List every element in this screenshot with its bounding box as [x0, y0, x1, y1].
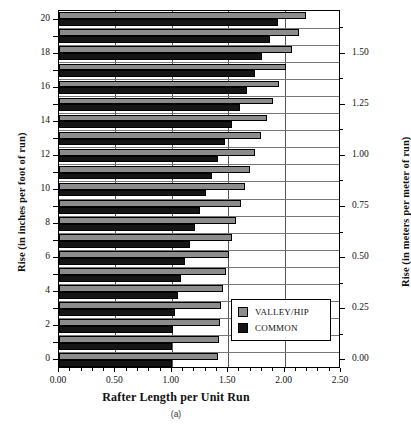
- bar-group: [59, 164, 339, 181]
- x-axis-tick-minor: [329, 368, 330, 371]
- y-axis-tick-right-minor: [340, 283, 343, 284]
- bar-valley-hip: [59, 251, 229, 258]
- y-axis-label-left: 8: [30, 218, 50, 227]
- legend: VALLEY/HIP COMMON: [231, 299, 331, 341]
- x-axis-tick-minor: [238, 368, 239, 371]
- bar-valley-hip: [59, 183, 245, 190]
- y-axis-label-left: 12: [30, 150, 50, 159]
- bar-group: [59, 11, 339, 28]
- bar-valley-hip: [59, 302, 221, 309]
- y-axis-tick-left: [53, 223, 58, 224]
- y-axis-tick-left: [53, 291, 58, 292]
- figure-caption: (a): [0, 409, 352, 419]
- y-axis-tick-right-minor: [340, 232, 343, 233]
- legend-item: COMMON: [238, 320, 330, 336]
- x-axis-tick-minor: [250, 368, 251, 371]
- bar-group: [59, 216, 339, 233]
- y-axis-label-left: 10: [30, 184, 50, 193]
- x-axis-tick-minor: [193, 368, 194, 371]
- x-axis-tick: [340, 368, 341, 372]
- bar-valley-hip: [59, 234, 232, 241]
- bar-common: [59, 275, 181, 282]
- bar-group: [59, 250, 339, 267]
- bar-common: [59, 241, 190, 248]
- y-axis-tick-right-minor: [340, 334, 343, 335]
- y-axis-tick-right: [340, 155, 345, 156]
- bar-group: [59, 147, 339, 164]
- x-axis-tick-minor: [317, 368, 318, 371]
- bar-valley-hip: [59, 98, 273, 105]
- x-axis-tick: [171, 368, 172, 372]
- bar-valley-hip: [59, 115, 267, 122]
- y-axis-tick-left: [53, 206, 58, 207]
- bar-common: [59, 292, 178, 299]
- y-axis-tick-right-minor: [340, 129, 343, 130]
- y-axis-tick-left: [53, 172, 58, 173]
- y-axis-tick-left: [53, 19, 58, 20]
- y-axis-tick-right: [340, 359, 345, 360]
- x-axis-tick-minor: [92, 368, 93, 371]
- y-axis-label-right: 0.25: [352, 303, 369, 312]
- bar-common: [59, 70, 255, 77]
- bar-valley-hip: [59, 319, 220, 326]
- x-axis-tick-minor: [69, 368, 70, 371]
- bar-valley-hip: [59, 64, 286, 71]
- y-axis-tick-left: [53, 138, 58, 139]
- x-axis-tick-minor: [148, 368, 149, 371]
- y-axis-tick-left: [53, 257, 58, 258]
- y-axis-tick-right-minor: [340, 78, 343, 79]
- legend-swatch-valley-hip: [238, 307, 248, 317]
- x-axis-label: 2.00: [264, 375, 304, 385]
- y-axis-tick-right: [340, 53, 345, 54]
- bar-valley-hip: [59, 29, 299, 36]
- y-axis-tick-left: [53, 70, 58, 71]
- bar-valley-hip: [59, 336, 219, 343]
- legend-item: VALLEY/HIP: [238, 304, 330, 320]
- bar-group: [59, 267, 339, 284]
- bar-common: [59, 36, 270, 43]
- bar-valley-hip: [59, 353, 218, 360]
- legend-swatch-common: [238, 323, 248, 333]
- bar-valley-hip: [59, 285, 223, 292]
- y-axis-label-right: 0.00: [352, 354, 369, 363]
- bar-common: [59, 207, 200, 214]
- y-axis-tick-right-minor: [340, 180, 343, 181]
- y-axis-tick-left: [53, 325, 58, 326]
- y-axis-label-right: 1.00: [352, 150, 369, 159]
- x-axis-tick-minor: [216, 368, 217, 371]
- bar-common: [59, 224, 195, 231]
- bar-group: [59, 62, 339, 79]
- bar-valley-hip: [59, 166, 250, 173]
- bar-common: [59, 343, 172, 350]
- bar-valley-hip: [59, 46, 292, 53]
- bar-group: [59, 199, 339, 216]
- bar-valley-hip: [59, 12, 306, 19]
- x-axis-tick: [58, 368, 59, 372]
- y-axis-label-left: 0: [30, 354, 50, 363]
- y-axis-label-left: 20: [30, 14, 50, 23]
- y-axis-label-right: 1.50: [352, 48, 369, 57]
- bar-valley-hip: [59, 268, 226, 275]
- y-axis-tick-right: [340, 308, 345, 309]
- bar-common: [59, 19, 278, 26]
- x-axis-tick-minor: [137, 368, 138, 371]
- bar-common: [59, 156, 218, 163]
- bar-common: [59, 139, 225, 146]
- bar-common: [59, 326, 173, 333]
- x-axis-tick: [284, 368, 285, 372]
- bar-common: [59, 121, 232, 128]
- y-axis-label-right: 0.50: [352, 252, 369, 261]
- y-axis-tick-left: [53, 359, 58, 360]
- y-axis-tick-right: [340, 104, 345, 105]
- y-axis-tick-right-minor: [340, 27, 343, 28]
- y-axis-tick-right: [340, 257, 345, 258]
- bar-valley-hip: [59, 217, 236, 224]
- y-axis-label-left: 6: [30, 252, 50, 261]
- y-axis-tick-left: [53, 189, 58, 190]
- x-axis-tick-minor: [306, 368, 307, 371]
- bar-common: [59, 173, 212, 180]
- y-axis-title-right: Rise (in meters per meter of run): [400, 137, 411, 287]
- x-axis-label: 2.50: [320, 375, 360, 385]
- bar-group: [59, 113, 339, 130]
